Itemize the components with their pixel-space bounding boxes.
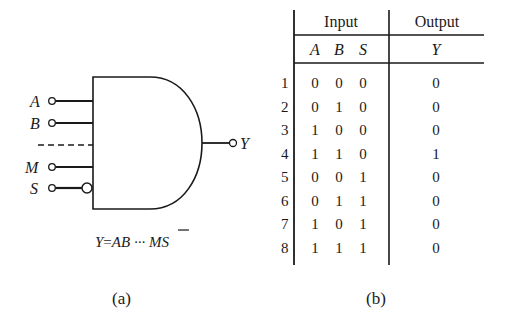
input-a: A bbox=[29, 93, 93, 110]
equation-equals: = bbox=[103, 234, 111, 250]
caption-a: (a) bbox=[112, 289, 131, 308]
and-gate bbox=[93, 77, 202, 209]
cell-y: 0 bbox=[432, 193, 440, 209]
row-number: 5 bbox=[281, 169, 289, 185]
row-number: 1 bbox=[281, 75, 289, 91]
input-a-label: A bbox=[29, 93, 40, 110]
cell-y: 0 bbox=[432, 240, 440, 256]
cell-a: 0 bbox=[311, 75, 319, 91]
row-number: 3 bbox=[281, 122, 289, 138]
cell-y: 0 bbox=[432, 216, 440, 232]
cell-b: 1 bbox=[335, 193, 343, 209]
cell-y: 0 bbox=[432, 122, 440, 138]
cell-a: 1 bbox=[311, 146, 319, 162]
cell-b: 1 bbox=[335, 146, 343, 162]
input-b: B bbox=[30, 115, 93, 132]
cell-s: 0 bbox=[359, 99, 367, 115]
col-b-header: B bbox=[334, 41, 344, 58]
row-number: 4 bbox=[281, 146, 289, 162]
svg-text:Y=AB ··· MS: Y=AB ··· MS bbox=[95, 234, 169, 250]
table-row: 41101 bbox=[281, 146, 440, 162]
table-row: 60110 bbox=[281, 193, 440, 209]
boolean-equation: Y=AB ··· MS bbox=[95, 230, 189, 250]
cell-s: 1 bbox=[359, 216, 367, 232]
table-row: 50010 bbox=[281, 169, 440, 185]
output-y: Y bbox=[202, 135, 251, 152]
diagram-canvas: A B M S Y Y=AB ··· MS (a) In bbox=[0, 0, 509, 328]
table-row: 81110 bbox=[281, 240, 440, 256]
cell-s: 0 bbox=[359, 146, 367, 162]
output-y-label: Y bbox=[240, 135, 251, 152]
table-row: 31000 bbox=[281, 122, 440, 138]
table-rows: 1000020100310004110150010601107101081110 bbox=[281, 75, 440, 256]
cell-s: 1 bbox=[359, 169, 367, 185]
col-y-header: Y bbox=[432, 41, 443, 58]
cell-b: 0 bbox=[335, 216, 343, 232]
cell-b: 1 bbox=[335, 99, 343, 115]
cell-a: 1 bbox=[311, 240, 319, 256]
cell-y: 0 bbox=[432, 169, 440, 185]
equation-terms: AB ··· M bbox=[111, 234, 163, 250]
header-input: Input bbox=[324, 13, 358, 31]
cell-s: 0 bbox=[359, 75, 367, 91]
cell-b: 0 bbox=[335, 75, 343, 91]
cell-a: 0 bbox=[311, 99, 319, 115]
input-s-label: S bbox=[30, 180, 38, 197]
cell-s: 1 bbox=[359, 240, 367, 256]
table-row: 20100 bbox=[281, 99, 440, 115]
row-number: 6 bbox=[281, 193, 289, 209]
caption-b: (b) bbox=[366, 289, 386, 308]
cell-s: 1 bbox=[359, 193, 367, 209]
input-b-label: B bbox=[30, 115, 40, 132]
equation-negated-term: S bbox=[161, 234, 169, 250]
cell-b: 1 bbox=[335, 240, 343, 256]
table-row: 71010 bbox=[281, 216, 440, 232]
cell-b: 0 bbox=[335, 169, 343, 185]
cell-a: 1 bbox=[311, 216, 319, 232]
input-s: S bbox=[30, 180, 92, 197]
row-number: 7 bbox=[281, 216, 289, 232]
input-m: M bbox=[24, 159, 93, 176]
col-s-header: S bbox=[359, 41, 367, 58]
row-number: 2 bbox=[281, 99, 289, 115]
table-row: 10000 bbox=[281, 75, 440, 91]
cell-y: 0 bbox=[432, 75, 440, 91]
cell-s: 0 bbox=[359, 122, 367, 138]
cell-a: 0 bbox=[311, 169, 319, 185]
header-output: Output bbox=[415, 13, 460, 31]
input-m-label: M bbox=[24, 159, 40, 176]
cell-a: 1 bbox=[311, 122, 319, 138]
col-a-header: A bbox=[309, 41, 320, 58]
cell-y: 0 bbox=[432, 99, 440, 115]
cell-a: 0 bbox=[311, 193, 319, 209]
inversion-bubble-icon bbox=[82, 183, 92, 193]
truth-table bbox=[294, 10, 484, 265]
row-number: 8 bbox=[281, 240, 289, 256]
cell-b: 0 bbox=[335, 122, 343, 138]
cell-y: 1 bbox=[432, 146, 440, 162]
